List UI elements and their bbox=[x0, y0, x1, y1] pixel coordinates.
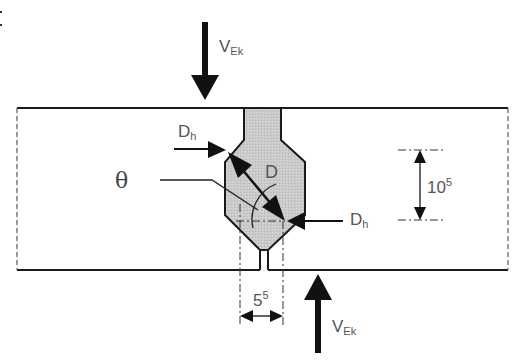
dh-left-sub: h bbox=[190, 130, 196, 142]
force-top-main: V bbox=[219, 37, 230, 56]
diameter-label: D bbox=[265, 163, 278, 181]
force-top-label: VEk bbox=[219, 38, 243, 57]
force-bottom-sub: Ek bbox=[343, 325, 356, 337]
force-bottom-main: V bbox=[332, 317, 343, 336]
dh-left-main: D bbox=[178, 122, 190, 141]
dh-left-arrow bbox=[174, 141, 226, 158]
dim-width-label: 55 bbox=[253, 290, 269, 309]
dim-height-sup: 5 bbox=[446, 176, 452, 188]
dim-width-arrow bbox=[240, 310, 283, 322]
legend-marker bbox=[0, 11, 2, 26]
dim-height-main: 10 bbox=[427, 178, 446, 197]
angle-label: θ bbox=[115, 170, 128, 192]
dh-right-main: D bbox=[350, 210, 362, 229]
force-arrow-top bbox=[191, 22, 219, 100]
dh-left-label: Dh bbox=[178, 123, 196, 142]
dim-width-sup: 5 bbox=[262, 289, 268, 301]
dh-right-sub: h bbox=[362, 218, 368, 230]
force-top-sub: Ek bbox=[230, 45, 243, 57]
dh-right-label: Dh bbox=[350, 211, 368, 230]
force-bottom-label: VEk bbox=[332, 318, 356, 337]
weld-profile bbox=[225, 108, 305, 270]
dim-height-label: 105 bbox=[427, 177, 452, 196]
force-arrow-bottom bbox=[304, 274, 332, 353]
dim-height-arrow bbox=[414, 150, 426, 220]
